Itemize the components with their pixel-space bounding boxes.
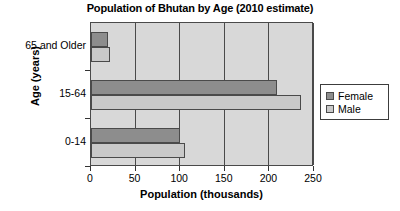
- legend-item: Female: [326, 89, 384, 102]
- legend-item: Male: [326, 102, 384, 115]
- x-axis-tick-mark: [179, 166, 180, 171]
- legend-item-label: Male: [338, 103, 361, 115]
- bar-female-0-14: [91, 128, 180, 143]
- x-axis-tick-label: 0: [70, 172, 110, 184]
- bar-male-0-14: [91, 143, 185, 158]
- y-axis-category-label: 65 and Older: [0, 39, 86, 51]
- bar-female-65-and-older: [91, 32, 108, 47]
- gridline: [313, 23, 314, 165]
- bar-chart-figure: Population of Bhutan by Age (2010 estima…: [0, 0, 400, 211]
- chart-legend: FemaleMale: [320, 84, 389, 120]
- y-axis-tick-mark: [85, 166, 90, 167]
- x-axis-tick-mark: [224, 166, 225, 171]
- y-axis-label: Age (years): [29, 21, 41, 131]
- bar-female-15-64: [91, 80, 277, 95]
- x-axis-tick-mark: [90, 166, 91, 171]
- y-axis-category-label: 15-64: [0, 87, 86, 99]
- plot-area: [90, 22, 313, 166]
- y-axis-tick-mark: [85, 118, 90, 119]
- bar-male-65-and-older: [91, 47, 110, 62]
- x-axis-label: Population (thousands): [90, 188, 313, 200]
- y-axis-tick-mark: [85, 70, 90, 71]
- x-axis-tick-label: 50: [115, 172, 155, 184]
- bar-male-15-64: [91, 95, 301, 110]
- x-axis-tick-mark: [313, 166, 314, 171]
- x-axis-tick-label: 100: [159, 172, 199, 184]
- legend-swatch-icon: [326, 105, 334, 113]
- x-axis-tick-mark: [268, 166, 269, 171]
- x-axis-tick-mark: [135, 166, 136, 171]
- legend-swatch-icon: [326, 92, 334, 100]
- x-axis-tick-label: 200: [248, 172, 288, 184]
- y-axis-category-label: 0-14: [0, 135, 86, 147]
- x-axis-tick-label: 250: [293, 172, 333, 184]
- chart-title: Population of Bhutan by Age (2010 estima…: [0, 2, 400, 14]
- x-axis-tick-label: 150: [204, 172, 244, 184]
- legend-item-label: Female: [338, 90, 373, 102]
